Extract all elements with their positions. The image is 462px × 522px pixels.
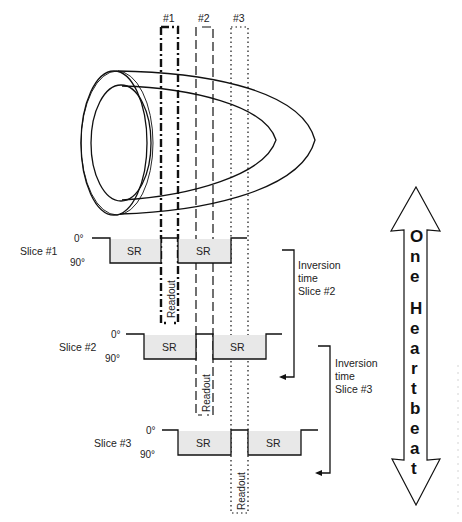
svg-text:t: t — [411, 459, 417, 478]
svg-text:O: O — [410, 227, 423, 246]
svg-text:n: n — [410, 247, 420, 266]
inner-wall-curve — [122, 86, 276, 200]
angle-top-3: 0° — [146, 425, 156, 436]
row-label-slice-1: Slice #1 — [20, 245, 58, 257]
svg-text:e: e — [410, 319, 419, 338]
readout-label-3: Readout — [236, 472, 247, 510]
slice-label-3: #3 — [233, 12, 245, 24]
inversion-label-2-line2: time — [298, 272, 318, 284]
inversion-label-3-line2: time — [335, 370, 355, 382]
readout-label-1: Readout — [166, 280, 177, 318]
sr-block-2a: SR — [162, 341, 177, 353]
svg-text:H: H — [410, 299, 422, 318]
sr-block-2b: SR — [230, 341, 245, 353]
row-label-slice-2: Slice #2 — [59, 341, 97, 353]
slice-label-2: #2 — [198, 12, 210, 24]
inversion-time-bracket-3: Inversion time Slice #3 — [315, 346, 378, 476]
inversion-label-2-line3: Slice #2 — [298, 285, 336, 297]
sr-block-1b: SR — [196, 245, 211, 257]
inversion-label-3-line1: Inversion — [335, 357, 378, 369]
diagram-canvas: #1 Readout #2 Readout #3 Readout Slice #… — [0, 0, 462, 522]
svg-text:a: a — [410, 439, 420, 458]
angle-top-2: 0° — [111, 329, 121, 340]
angle-bottom-1: 90° — [70, 257, 85, 268]
arrowhead-icon — [315, 470, 322, 476]
sr-block-3b: SR — [266, 437, 281, 449]
sr-block-1a: SR — [127, 245, 142, 257]
inner-cross-section — [91, 85, 151, 201]
slice-column-1: #1 Readout — [161, 12, 178, 323]
angle-top-1: 0° — [74, 233, 84, 244]
row-label-slice-3: Slice #3 — [94, 437, 132, 449]
inversion-label-3-line3: Slice #3 — [335, 383, 373, 395]
svg-text:t: t — [411, 379, 417, 398]
svg-text:r: r — [411, 359, 418, 378]
slice-label-1: #1 — [163, 12, 175, 24]
slice-column-2: #2 Readout — [196, 12, 213, 415]
angle-bottom-3: 90° — [140, 449, 155, 460]
angle-bottom-2: 90° — [105, 353, 120, 364]
inversion-time-bracket-2: Inversion time Slice #2 — [279, 250, 341, 380]
svg-text:a: a — [410, 339, 420, 358]
inversion-label-2-line1: Inversion — [298, 259, 341, 271]
svg-text:b: b — [410, 399, 420, 418]
sr-block-3a: SR — [196, 437, 211, 449]
svg-text:e: e — [410, 267, 419, 286]
arrowhead-icon — [279, 374, 286, 380]
heartbeat-double-arrow-icon: O n e H e a r t b e a t — [391, 187, 440, 505]
ventricle-illustration — [81, 71, 315, 215]
svg-text:e: e — [410, 419, 419, 438]
readout-label-2: Readout — [201, 374, 212, 412]
pulse-row-slice-3: Slice #3 0° 90° SR SR — [94, 425, 318, 460]
